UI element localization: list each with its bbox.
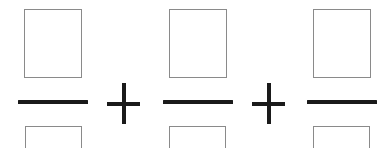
- plus-1-icon: [107, 83, 140, 124]
- fraction-2-denominator-box[interactable]: [169, 126, 226, 148]
- fraction-3-numerator-box[interactable]: [313, 9, 371, 78]
- equation-canvas: [0, 0, 377, 148]
- fraction-1-bar: [18, 100, 88, 104]
- fraction-2-numerator-box[interactable]: [169, 9, 227, 78]
- fraction-1-numerator-box[interactable]: [24, 9, 82, 78]
- fraction-3-denominator-box[interactable]: [313, 126, 370, 148]
- fraction-3-bar: [307, 100, 377, 104]
- fraction-1-denominator-box[interactable]: [25, 126, 82, 148]
- plus-1-vertical-stroke: [122, 83, 126, 124]
- plus-2-icon: [252, 83, 285, 124]
- plus-2-vertical-stroke: [267, 83, 271, 124]
- fraction-2-bar: [163, 100, 233, 104]
